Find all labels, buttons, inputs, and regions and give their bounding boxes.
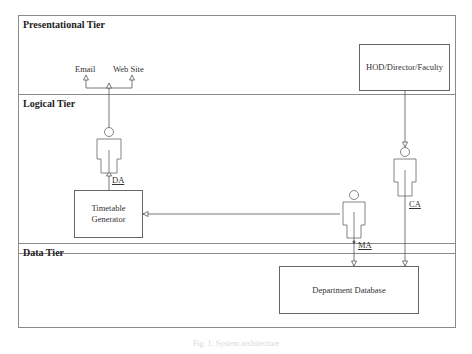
- actor-ca-icon: [394, 148, 416, 197]
- timetable-generator-box: Timetable Generator: [74, 190, 143, 238]
- hod-director-faculty-box: HOD/Director/Faculty: [359, 44, 450, 91]
- department-database-box: Department Database: [279, 266, 419, 314]
- actor-da-icon: [97, 128, 121, 174]
- actor-ma-label: MA: [358, 240, 372, 250]
- actor-ma-icon: [343, 191, 365, 239]
- database-label: Department Database: [312, 285, 385, 296]
- timetable-label-line1: Timetable: [91, 203, 125, 214]
- actor-da-label: DA: [112, 175, 124, 185]
- figure-caption: Fig. 1: System architecture: [0, 339, 472, 348]
- hod-label: HOD/Director/Faculty: [366, 62, 443, 73]
- timetable-label-line2: Generator: [92, 214, 126, 225]
- actor-ca-label: CA: [409, 199, 421, 209]
- email-label: Email: [75, 64, 95, 74]
- website-label: Web Site: [113, 64, 144, 74]
